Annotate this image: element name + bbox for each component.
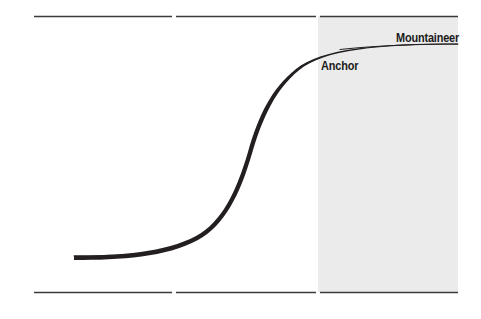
annotation-anchor: Anchor: [321, 59, 358, 72]
chart-canvas: [0, 0, 481, 319]
annotation-mountaineer: Mountaineer: [396, 31, 459, 44]
s-curve-figure: Mountaineer Anchor: [0, 0, 481, 319]
